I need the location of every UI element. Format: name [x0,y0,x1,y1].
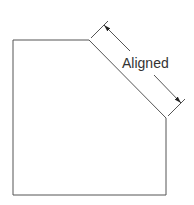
dimension-label: Aligned [122,55,169,71]
extension-line-start [91,21,108,38]
dimension-line-lower [154,75,181,103]
dimension-line-upper [104,25,130,51]
aligned-dimension-diagram: Aligned [0,0,194,205]
extension-line-end [168,99,185,116]
diagram-canvas: Aligned [0,0,194,205]
